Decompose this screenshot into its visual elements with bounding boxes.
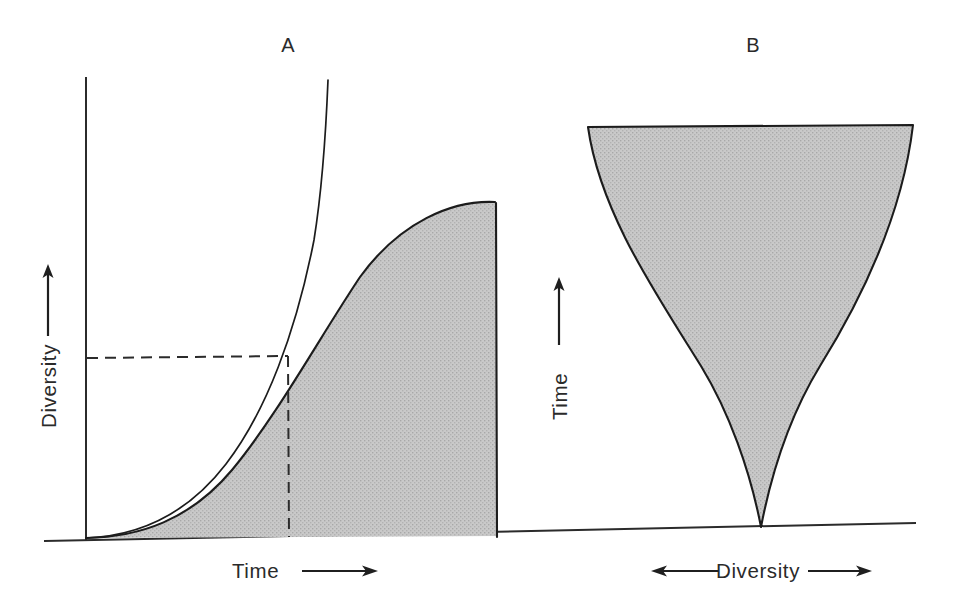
panel-b-y-axis-label: Time bbox=[548, 373, 571, 420]
panel-a-x-axis-label: Time bbox=[232, 559, 279, 582]
panel-b-y-axis-label-group: Time bbox=[548, 277, 571, 420]
panel-a: A Diversity Time bbox=[37, 34, 497, 582]
panel-b-letter: B bbox=[746, 34, 760, 56]
panel-a-vertical-guide bbox=[288, 356, 289, 537]
panel-b-x-axis-label: Diversity bbox=[716, 559, 800, 582]
diversity-time-figure: A Diversity Time B bbox=[0, 0, 960, 609]
panel-a-horizontal-guide bbox=[87, 356, 288, 358]
panel-a-y-axis-label: Diversity bbox=[37, 344, 60, 428]
panel-b-shaded-area bbox=[588, 125, 913, 527]
panel-a-area-right-edge bbox=[496, 203, 497, 537]
panel-a-x-axis-label-group: Time bbox=[232, 559, 378, 582]
figure-root: A Diversity Time B bbox=[0, 0, 960, 609]
panel-b: B Time Diversity bbox=[548, 34, 913, 582]
panel-a-y-axis-label-group: Diversity bbox=[37, 264, 60, 428]
panel-a-letter: A bbox=[281, 34, 295, 56]
panel-b-x-axis-label-group: Diversity bbox=[651, 559, 872, 582]
panel-a-shaded-area bbox=[86, 202, 497, 538]
